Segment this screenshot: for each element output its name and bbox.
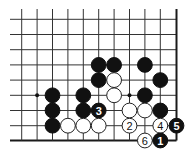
move-number-label: 6	[142, 135, 148, 147]
white-stone-icon	[107, 73, 122, 88]
black-stone	[91, 73, 106, 88]
move-number-label: 1	[157, 135, 163, 147]
go-board-diagram: 324561	[0, 0, 194, 155]
star-point-icon	[128, 93, 132, 97]
black-stone	[45, 88, 60, 103]
white-stone-icon	[107, 88, 122, 103]
black-stone-icon	[138, 58, 153, 73]
black-stone-icon	[153, 73, 168, 88]
white-stone-icon	[61, 118, 76, 133]
move-4-stone: 4	[153, 118, 168, 133]
move-number-label: 5	[173, 120, 179, 132]
move-5-stone: 5	[169, 118, 184, 133]
black-stone	[153, 73, 168, 88]
move-6-stone: 6	[138, 133, 153, 148]
black-stone	[138, 58, 153, 73]
black-stone	[91, 58, 106, 73]
black-stone	[76, 103, 91, 118]
move-number-label: 3	[96, 105, 102, 117]
black-stone-icon	[45, 103, 60, 118]
move-number-label: 4	[157, 120, 163, 132]
black-stone-icon	[45, 118, 60, 133]
black-stone	[138, 88, 153, 103]
move-3-stone: 3	[91, 103, 106, 118]
black-stone-icon	[91, 58, 106, 73]
move-2-stone: 2	[122, 118, 137, 133]
black-stone	[107, 58, 122, 73]
black-stone-icon	[76, 103, 91, 118]
white-stone	[138, 103, 153, 118]
black-stone	[76, 88, 91, 103]
white-stone	[107, 73, 122, 88]
white-stone-icon	[138, 103, 153, 118]
white-stone	[61, 118, 76, 133]
white-stone-icon	[122, 103, 137, 118]
black-stone-icon	[107, 58, 122, 73]
white-stone-icon	[76, 118, 91, 133]
black-stone-icon	[138, 88, 153, 103]
star-point-icon	[35, 93, 39, 97]
white-stone	[122, 103, 137, 118]
white-stone	[107, 88, 122, 103]
black-stone-icon	[45, 88, 60, 103]
black-stone-icon	[153, 103, 168, 118]
white-stone-icon	[91, 118, 106, 133]
black-stone	[153, 103, 168, 118]
move-number-label: 2	[126, 120, 132, 132]
black-stone-icon	[76, 88, 91, 103]
white-stone	[76, 118, 91, 133]
black-stone	[45, 103, 60, 118]
black-stone-icon	[91, 73, 106, 88]
white-stone	[91, 118, 106, 133]
move-1-stone: 1	[153, 133, 168, 148]
black-stone	[45, 118, 60, 133]
